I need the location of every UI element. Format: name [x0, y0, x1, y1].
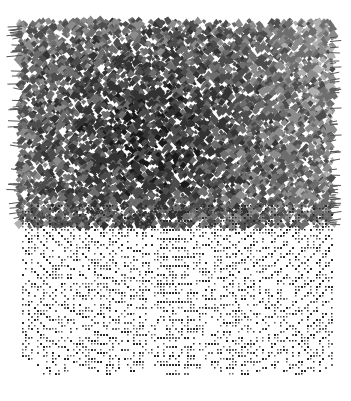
- abstract-textured-artwork: [0, 0, 351, 401]
